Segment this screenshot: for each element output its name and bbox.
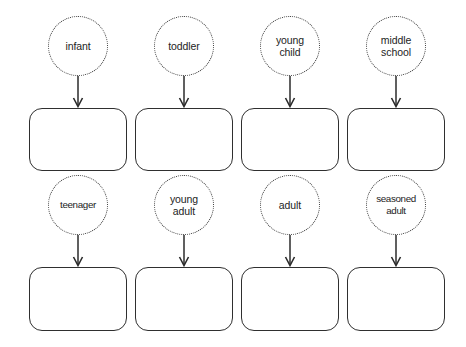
stage-box-toddler[interactable] bbox=[135, 108, 233, 171]
stage-row-2: teenager young adult adu bbox=[0, 175, 466, 331]
stage-cell-seasoned-adult: seasoned adult bbox=[347, 175, 445, 331]
stage-box-young-child[interactable] bbox=[241, 108, 339, 171]
stage-circle-label: seasoned adult bbox=[376, 193, 416, 218]
stage-cell-young-child: young child bbox=[241, 16, 339, 171]
arrow-down-icon bbox=[389, 235, 403, 267]
stage-cell-young-adult: young adult bbox=[135, 175, 233, 331]
stage-box-seasoned-adult[interactable] bbox=[347, 267, 445, 331]
stage-circle-label: toddler bbox=[168, 40, 199, 53]
stage-circle-seasoned-adult[interactable]: seasoned adult bbox=[366, 175, 426, 235]
stage-circle-label: middle school bbox=[381, 34, 411, 59]
stage-box-infant[interactable] bbox=[29, 108, 127, 171]
stage-circle-middle-school[interactable]: middle school bbox=[366, 16, 426, 76]
stage-cell-toddler: toddler bbox=[135, 16, 233, 171]
stage-cell-infant: infant bbox=[29, 16, 127, 171]
stage-circle-infant[interactable]: infant bbox=[48, 16, 108, 76]
stage-box-middle-school[interactable] bbox=[347, 108, 445, 171]
stage-cell-adult: adult bbox=[241, 175, 339, 331]
arrow-down-icon bbox=[283, 76, 297, 108]
stage-circle-young-adult[interactable]: young adult bbox=[154, 175, 214, 235]
stage-cell-middle-school: middle school bbox=[347, 16, 445, 171]
arrow-down-icon bbox=[71, 235, 85, 267]
arrow-down-icon bbox=[177, 235, 191, 267]
arrow-down-icon bbox=[389, 76, 403, 108]
stage-circle-label: young adult bbox=[170, 193, 198, 218]
stage-box-young-adult[interactable] bbox=[135, 267, 233, 331]
stage-circle-label: teenager bbox=[60, 199, 96, 212]
stage-row-1: infant toddler young chi bbox=[0, 16, 466, 171]
stage-circle-young-child[interactable]: young child bbox=[260, 16, 320, 76]
stage-box-adult[interactable] bbox=[241, 267, 339, 331]
stage-box-teenager[interactable] bbox=[29, 267, 127, 331]
stage-circle-label: infant bbox=[65, 40, 90, 53]
stage-circle-adult[interactable]: adult bbox=[260, 175, 320, 235]
stage-cell-teenager: teenager bbox=[29, 175, 127, 331]
stage-circle-label: adult bbox=[279, 199, 301, 212]
arrow-down-icon bbox=[177, 76, 191, 108]
stage-circle-teenager[interactable]: teenager bbox=[48, 175, 108, 235]
stage-circle-toddler[interactable]: toddler bbox=[154, 16, 214, 76]
arrow-down-icon bbox=[283, 235, 297, 267]
life-stages-diagram: infant toddler young chi bbox=[0, 0, 466, 347]
arrow-down-icon bbox=[71, 76, 85, 108]
stage-circle-label: young child bbox=[276, 34, 304, 59]
